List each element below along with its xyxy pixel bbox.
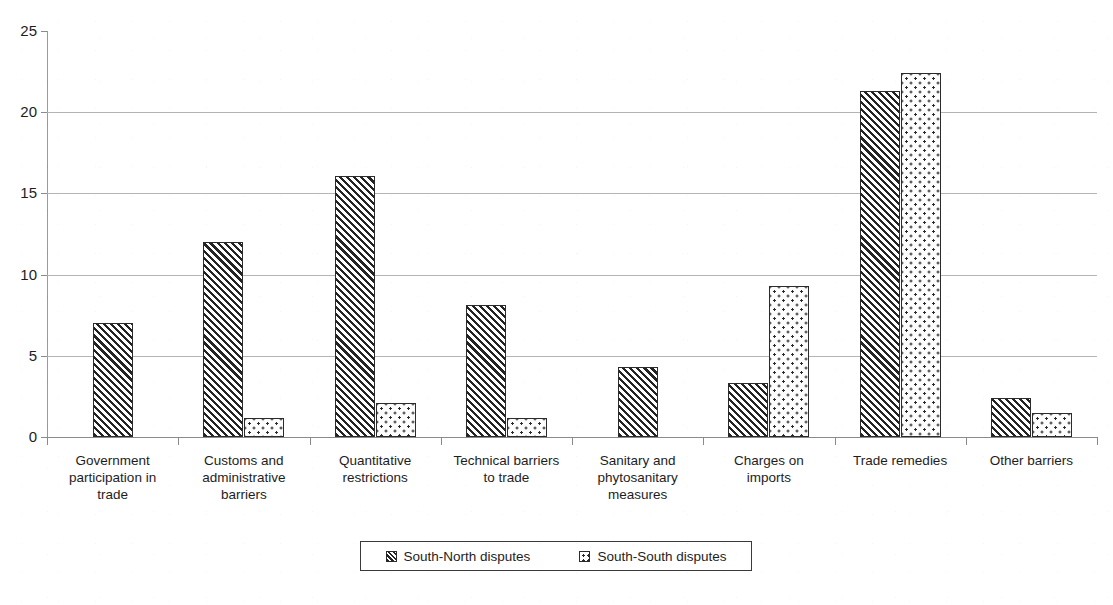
- bar-group: [572, 31, 703, 437]
- bar-group: [835, 31, 966, 437]
- x-tick-mark: [178, 437, 179, 445]
- grouped-bar-chart: 0510152025 Governmentparticipation intra…: [0, 0, 1113, 605]
- legend-label-south-north: South-North disputes: [404, 549, 531, 564]
- bar-south-north: [860, 91, 900, 437]
- x-tick-mark: [47, 437, 48, 445]
- legend-label-south-south: South-South disputes: [597, 549, 726, 564]
- x-tick-mark: [310, 437, 311, 445]
- category-label-line: Quantitative: [310, 452, 441, 469]
- category-label-line: restrictions: [310, 469, 441, 486]
- y-axis-tick-label: 0: [0, 429, 37, 444]
- bar-group: [703, 31, 834, 437]
- x-tick-mark: [441, 437, 442, 445]
- bar-south-south: [376, 403, 416, 437]
- y-axis-tick-label: 25: [0, 23, 37, 38]
- y-axis-tick-label: 5: [0, 348, 37, 363]
- chart-legend: South-North disputes South-South dispute…: [360, 541, 752, 571]
- x-axis-category-label: Technical barriersto trade: [441, 452, 572, 486]
- category-label-line: administrative: [178, 469, 309, 486]
- bar-south-south: [507, 418, 547, 437]
- y-axis-tick-label: 15: [0, 185, 37, 200]
- category-label-line: Charges on: [703, 452, 834, 469]
- dot-swatch-icon: [579, 551, 590, 562]
- legend-item-south-south: South-South disputes: [579, 549, 726, 564]
- bar-south-south: [244, 418, 284, 437]
- bar-south-south: [769, 286, 809, 437]
- x-axis-category-label: Charges onimports: [703, 452, 834, 486]
- x-axis-category-label: Other barriers: [966, 452, 1097, 469]
- category-label-line: phytosanitary: [572, 469, 703, 486]
- x-axis-category-label: Trade remedies: [835, 452, 966, 469]
- bar-group: [310, 31, 441, 437]
- bar-south-north: [991, 398, 1031, 437]
- x-axis-category-label: Quantitativerestrictions: [310, 452, 441, 486]
- category-label-line: participation in: [47, 469, 178, 486]
- legend-item-south-north: South-North disputes: [386, 549, 531, 564]
- x-tick-mark: [703, 437, 704, 445]
- x-axis-category-label: Sanitary andphytosanitarymeasures: [572, 452, 703, 503]
- x-axis-category-label: Governmentparticipation intrade: [47, 452, 178, 503]
- bar-group: [966, 31, 1097, 437]
- bar-group: [441, 31, 572, 437]
- plot-area: 0510152025: [47, 31, 1097, 437]
- x-tick-mark: [1097, 437, 1098, 445]
- bar-south-north: [728, 383, 768, 437]
- y-axis-tick-label: 10: [0, 267, 37, 282]
- x-tick-mark: [572, 437, 573, 445]
- category-label-line: Sanitary and: [572, 452, 703, 469]
- x-axis-category-label: Customs andadministrativebarriers: [178, 452, 309, 503]
- bar-group: [178, 31, 309, 437]
- bar-south-north: [93, 323, 133, 437]
- bar-south-north: [466, 305, 506, 437]
- category-label-line: Customs and: [178, 452, 309, 469]
- y-axis-tick-label: 20: [0, 104, 37, 119]
- category-label-line: measures: [572, 486, 703, 503]
- bar-south-south: [1032, 413, 1072, 437]
- category-label-line: barriers: [178, 486, 309, 503]
- bar-south-south: [901, 73, 941, 437]
- category-label-line: Government: [47, 452, 178, 469]
- x-tick-mark: [835, 437, 836, 445]
- category-label-line: Other barriers: [966, 452, 1097, 469]
- category-label-line: to trade: [441, 469, 572, 486]
- category-label-line: Trade remedies: [835, 452, 966, 469]
- bar-south-north: [335, 176, 375, 437]
- x-tick-mark: [966, 437, 967, 445]
- bar-south-north: [203, 242, 243, 437]
- bar-south-north: [618, 367, 658, 437]
- category-label-line: imports: [703, 469, 834, 486]
- category-label-line: trade: [47, 486, 178, 503]
- bar-group: [47, 31, 178, 437]
- category-label-line: Technical barriers: [441, 452, 572, 469]
- hatch-swatch-icon: [386, 551, 397, 562]
